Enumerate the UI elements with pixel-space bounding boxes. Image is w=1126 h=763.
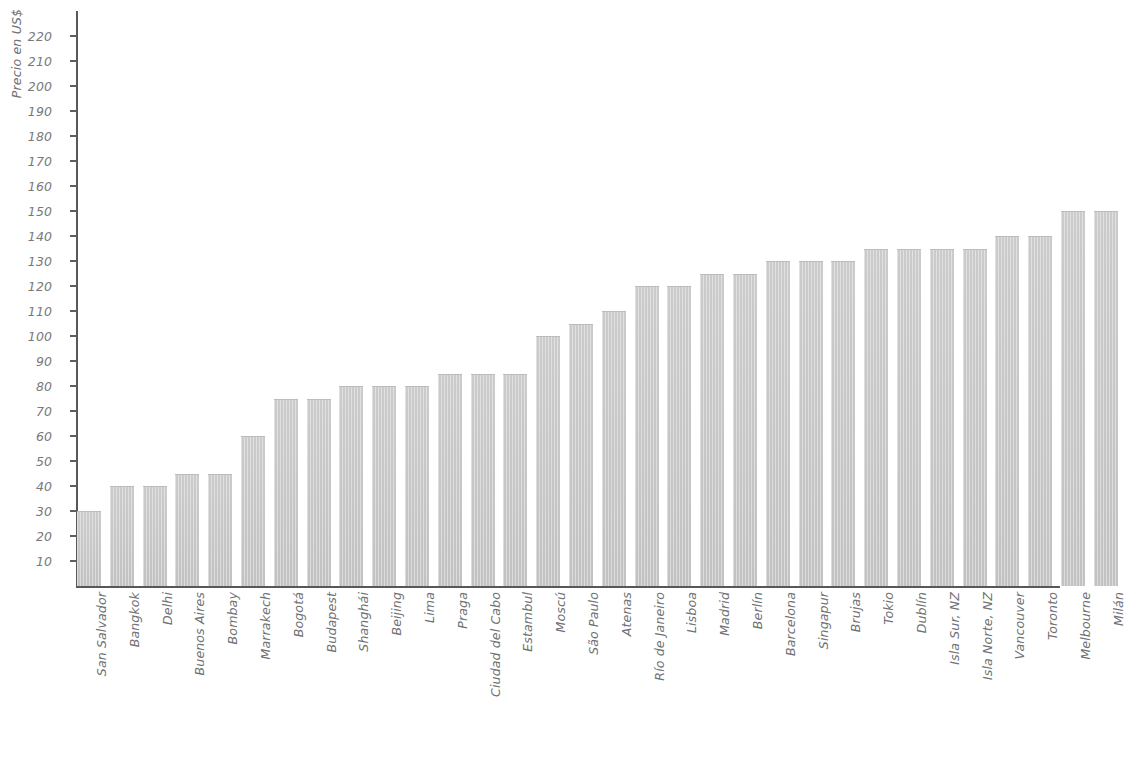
y-tick-170 — [70, 160, 77, 161]
bar — [471, 374, 495, 587]
y-tick-140 — [70, 235, 77, 236]
x-axis-line — [76, 586, 1060, 588]
x-tick-label: Madrid — [717, 592, 732, 752]
bar — [799, 261, 823, 586]
x-axis-tick-labels: San SalvadorBangkokDelhiBuenos AiresBomb… — [77, 592, 1060, 762]
bar — [405, 386, 429, 586]
y-tick-label-70: 70 — [36, 404, 52, 419]
bar — [175, 474, 199, 587]
y-tick-label-150: 150 — [28, 204, 52, 219]
y-axis-tick-labels: 1020304050607080901001101201301401501601… — [0, 11, 70, 586]
y-tick-label-180: 180 — [28, 129, 52, 144]
y-tick-190 — [70, 110, 77, 111]
y-tick-210 — [70, 60, 77, 61]
y-tick-120 — [70, 285, 77, 286]
y-tick-160 — [70, 185, 77, 186]
y-tick-label-220: 220 — [28, 29, 52, 44]
y-tick-label-160: 160 — [28, 179, 52, 194]
x-tick-label: Beijing — [389, 592, 404, 752]
y-tick-130 — [70, 260, 77, 261]
y-tick-150 — [70, 210, 77, 211]
y-tick-label-40: 40 — [36, 479, 52, 494]
bar — [897, 249, 921, 587]
y-tick-60 — [70, 435, 77, 436]
bar — [963, 249, 987, 587]
x-tick-label: Vancouver — [1012, 592, 1027, 752]
plot-area — [77, 11, 1060, 586]
x-tick-label: Moscú — [553, 592, 568, 752]
bar — [372, 386, 396, 586]
y-tick-label-90: 90 — [36, 354, 52, 369]
y-tick-label-20: 20 — [36, 529, 52, 544]
x-tick-label: Atenas — [619, 592, 634, 752]
x-tick-label: Isla Sur, NZ — [947, 592, 962, 752]
bar — [831, 261, 855, 586]
y-tick-label-10: 10 — [36, 554, 52, 569]
x-tick-label: Estambul — [520, 592, 535, 752]
bar — [536, 336, 560, 586]
x-tick-label: Brujas — [848, 592, 863, 752]
x-tick-label: Tokio — [881, 592, 896, 752]
y-tick-90 — [70, 360, 77, 361]
x-tick-label: Ciudad del Cabo — [488, 592, 503, 752]
x-tick-label: Melbourne — [1078, 592, 1093, 752]
x-tick-label: Dublín — [914, 592, 929, 752]
x-tick-label: Singapur — [816, 592, 831, 752]
y-tick-label-80: 80 — [36, 379, 52, 394]
y-tick-200 — [70, 85, 77, 86]
bar — [339, 386, 363, 586]
bar — [1094, 211, 1118, 586]
y-tick-label-60: 60 — [36, 429, 52, 444]
bar — [635, 286, 659, 586]
x-tick-label: Milán — [1111, 592, 1126, 752]
bar — [864, 249, 888, 587]
x-tick-label: Toronto — [1045, 592, 1060, 752]
bar — [241, 436, 265, 586]
y-tick-label-50: 50 — [36, 454, 52, 469]
x-tick-label: Marrakech — [258, 592, 273, 752]
x-tick-label: Buenos Aires — [192, 592, 207, 752]
bar — [602, 311, 626, 586]
y-tick-label-100: 100 — [28, 329, 52, 344]
bar — [766, 261, 790, 586]
y-tick-label-130: 130 — [28, 254, 52, 269]
x-tick-label: Río de Janeiro — [652, 592, 667, 752]
y-tick-label-170: 170 — [28, 154, 52, 169]
y-tick-label-30: 30 — [36, 504, 52, 519]
bar — [667, 286, 691, 586]
x-tick-label: Lima — [422, 592, 437, 752]
x-tick-label: Berlín — [750, 592, 765, 752]
x-tick-label: Bombay — [225, 592, 240, 752]
bar — [995, 236, 1019, 586]
y-tick-100 — [70, 335, 77, 336]
bar — [733, 274, 757, 587]
y-tick-label-190: 190 — [28, 104, 52, 119]
y-tick-180 — [70, 135, 77, 136]
bar — [569, 324, 593, 587]
y-axis-line — [76, 11, 78, 586]
x-tick-label: Barcelona — [783, 592, 798, 752]
bar — [1061, 211, 1085, 586]
x-tick-label: Shanghái — [356, 592, 371, 752]
x-tick-label: São Paulo — [586, 592, 601, 752]
y-tick-220 — [70, 35, 77, 36]
bar — [274, 399, 298, 587]
x-tick-label: Bangkok — [127, 592, 142, 752]
y-tick-110 — [70, 310, 77, 311]
bar — [1028, 236, 1052, 586]
x-tick-label: San Salvador — [94, 592, 109, 752]
y-tick-label-120: 120 — [28, 279, 52, 294]
bar — [110, 486, 134, 586]
x-tick-label: Lisboa — [684, 592, 699, 752]
y-tick-30 — [70, 510, 77, 511]
y-tick-label-110: 110 — [28, 304, 52, 319]
y-tick-40 — [70, 485, 77, 486]
y-tick-50 — [70, 460, 77, 461]
bar — [143, 486, 167, 586]
bar — [208, 474, 232, 587]
y-tick-80 — [70, 385, 77, 386]
y-tick-label-200: 200 — [28, 79, 52, 94]
y-tick-label-140: 140 — [28, 229, 52, 244]
x-tick-label: Delhi — [160, 592, 175, 752]
